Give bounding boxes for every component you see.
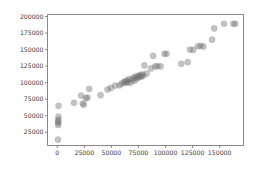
scatter-point [185, 59, 191, 65]
x-tick-label: 125000 [181, 149, 205, 156]
scatter-point [164, 51, 170, 57]
x-tick-label: 0 [55, 149, 59, 156]
scatter-point [143, 71, 149, 77]
y-tick-label: 125000 [20, 62, 44, 69]
scatter-point [55, 103, 61, 109]
x-tick-label: 75000 [129, 149, 149, 156]
scatter-point [81, 102, 87, 108]
x-tick-label: 100000 [154, 149, 178, 156]
y-tick-label: 150000 [20, 46, 44, 53]
scatter-point [178, 61, 184, 67]
scatter-point [158, 63, 164, 69]
y-tick-label: 75000 [24, 95, 44, 102]
scatter-point [141, 62, 147, 68]
plot-canvas: 2500050000750001000001250001500001750002… [0, 0, 260, 169]
x-tick-label: 25000 [74, 149, 94, 156]
y-tick-label: 100000 [20, 79, 44, 86]
scatter-point [86, 86, 92, 92]
scatter-point [97, 92, 103, 98]
scatter-point [221, 21, 227, 27]
y-tick-label: 200000 [20, 13, 44, 20]
y-tick-label: 175000 [20, 29, 44, 36]
x-tick-label: 50000 [102, 149, 122, 156]
x-tick-label: 150000 [208, 149, 232, 156]
scatter-point [84, 94, 90, 100]
scatter-point [55, 114, 61, 120]
scatter-point [55, 136, 61, 142]
scatter-point [209, 37, 215, 43]
scatter-point [211, 25, 217, 31]
scatter-plot-figure: 2500050000750001000001250001500001750002… [0, 0, 260, 169]
scatter-point [150, 53, 156, 59]
y-tick-label: 50000 [24, 112, 44, 119]
scatter-point [232, 21, 238, 27]
y-tick-label: 25000 [24, 128, 44, 135]
scatter-point [71, 100, 77, 106]
scatter-point [200, 43, 206, 49]
